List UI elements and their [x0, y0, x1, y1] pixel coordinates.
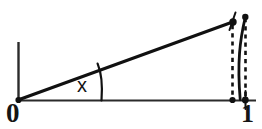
origin-label: 0 [6, 100, 20, 127]
angle-label: x [77, 75, 87, 95]
angle-ray-line [18, 22, 234, 101]
unit-circle-angle-figure: 0 1 x [0, 0, 262, 129]
unit-point-label: 1 [241, 101, 254, 127]
ray-endpoint-dot [229, 18, 236, 25]
left-foot-point-dot [229, 97, 235, 103]
figure-canvas [0, 0, 262, 129]
arc-top-point-dot [242, 14, 248, 20]
